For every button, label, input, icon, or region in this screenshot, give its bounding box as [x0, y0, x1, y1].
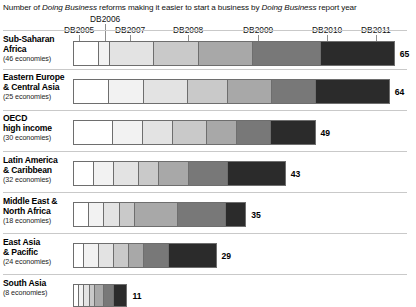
region-economies: (8 economies): [3, 288, 73, 297]
bar-segment-db2011[interactable]: [271, 121, 314, 144]
bar-segment-db2008[interactable]: [173, 121, 208, 144]
row-separator: [3, 30, 407, 31]
bar-segment-db2010[interactable]: [178, 203, 226, 226]
bar-segment-db2006[interactable]: [113, 121, 143, 144]
region-label-5: Middle East &North Africa(18 economies): [3, 196, 73, 225]
row-separator: [3, 274, 407, 275]
region-economies: (25 economies): [3, 92, 73, 101]
region-label-4: Latin America& Caribbean(32 economies): [3, 155, 73, 184]
bar-total-value-7: 11: [132, 291, 141, 301]
region-name: OECDhigh income: [3, 113, 52, 133]
bar-segment-db2009[interactable]: [135, 203, 179, 226]
region-label-6: East Asia& Pacific(24 economies): [3, 237, 73, 266]
region-label-2: Eastern Europe& Central Asia(25 economie…: [3, 72, 73, 101]
region-name: East Asia& Pacific: [3, 237, 40, 257]
bar-segment-db2008[interactable]: [139, 162, 159, 185]
bar-segment-db2010[interactable]: [144, 244, 168, 267]
bar-segment-db2005[interactable]: [74, 80, 109, 103]
bar-segment-db2009[interactable]: [159, 162, 189, 185]
bar-segment-db2009[interactable]: [199, 42, 253, 65]
bar-segment-db2005[interactable]: [74, 121, 113, 144]
bar-segment-db2011[interactable]: [228, 162, 285, 185]
bar-segment-db2009[interactable]: [129, 244, 144, 267]
bar-segment-db2008[interactable]: [120, 203, 135, 226]
bar-total-value-6: 29: [222, 251, 232, 261]
bar-segment-db2011[interactable]: [321, 42, 393, 65]
stacked-bar-6[interactable]: [73, 243, 217, 268]
bar-segment-db2011[interactable]: [316, 80, 388, 103]
stacked-bar-4[interactable]: [73, 161, 286, 186]
bar-segment-db2007[interactable]: [144, 80, 188, 103]
bar-segment-db2010[interactable]: [272, 80, 316, 103]
region-name: Sub-SaharanAfrica: [3, 34, 54, 54]
row-separator: [3, 69, 407, 70]
bar-total-value-3: 49: [321, 128, 331, 138]
bar-total-value-1: 65: [400, 49, 410, 59]
bar-segment-db2007[interactable]: [104, 203, 119, 226]
bar-segment-db2006[interactable]: [99, 42, 110, 65]
bar-segment-db2010[interactable]: [237, 121, 272, 144]
region-economies: (18 economies): [3, 216, 73, 225]
stacked-bar-3[interactable]: [73, 120, 316, 145]
stacked-bar-2[interactable]: [73, 79, 390, 104]
bar-segment-db2008[interactable]: [154, 42, 198, 65]
stacked-bar-1[interactable]: [73, 41, 395, 66]
row-separator: [3, 192, 407, 193]
bar-segment-db2011[interactable]: [114, 285, 127, 306]
region-label-1: Sub-SaharanAfrica(46 economies): [3, 34, 73, 63]
row-separator: [3, 151, 407, 152]
bar-segment-db2008[interactable]: [188, 80, 228, 103]
bar-segment-db2011[interactable]: [169, 244, 216, 267]
bar-segment-db2007[interactable]: [99, 244, 114, 267]
bar-segment-db2007[interactable]: [143, 121, 173, 144]
bar-segment-db2009[interactable]: [228, 80, 272, 103]
region-label-3: OECDhigh income(30 economies): [3, 113, 73, 142]
bar-segment-db2010[interactable]: [253, 42, 322, 65]
region-label-7: South Asia(8 economies): [3, 278, 73, 297]
chart-plot-area: Sub-SaharanAfrica(46 economies)65Eastern…: [0, 0, 416, 307]
bar-segment-db2008[interactable]: [114, 244, 129, 267]
bar-total-value-2: 64: [395, 87, 405, 97]
bar-segment-db2007[interactable]: [110, 42, 154, 65]
bar-segment-db2005[interactable]: [74, 162, 94, 185]
bar-segment-db2005[interactable]: [74, 203, 89, 226]
stacked-bar-5[interactable]: [73, 202, 246, 227]
stacked-bar-7[interactable]: [73, 284, 127, 307]
bar-segment-db2010[interactable]: [104, 285, 113, 306]
row-separator: [3, 110, 407, 111]
bar-segment-db2006[interactable]: [94, 162, 114, 185]
region-economies: (46 economies): [3, 54, 73, 63]
bar-segment-db2011[interactable]: [226, 203, 245, 226]
row-separator: [3, 233, 407, 234]
region-name: Eastern Europe& Central Asia: [3, 72, 64, 92]
bar-total-value-4: 43: [291, 169, 301, 179]
bar-segment-db2007[interactable]: [114, 162, 139, 185]
bar-segment-db2006[interactable]: [84, 244, 99, 267]
bar-segment-db2009[interactable]: [95, 285, 104, 306]
bar-segment-db2005[interactable]: [74, 244, 84, 267]
bar-segment-db2006[interactable]: [89, 203, 104, 226]
region-name: Latin America& Caribbean: [3, 155, 58, 175]
region-economies: (24 economies): [3, 257, 73, 266]
region-name: South Asia: [3, 278, 46, 288]
bar-segment-db2005[interactable]: [74, 42, 99, 65]
bar-segment-db2010[interactable]: [189, 162, 228, 185]
region-name: Middle East &North Africa: [3, 196, 57, 216]
bar-total-value-5: 35: [251, 210, 261, 220]
bar-segment-db2006[interactable]: [109, 80, 144, 103]
region-economies: (32 economies): [3, 175, 73, 184]
region-economies: (30 economies): [3, 133, 73, 142]
bar-segment-db2009[interactable]: [207, 121, 237, 144]
